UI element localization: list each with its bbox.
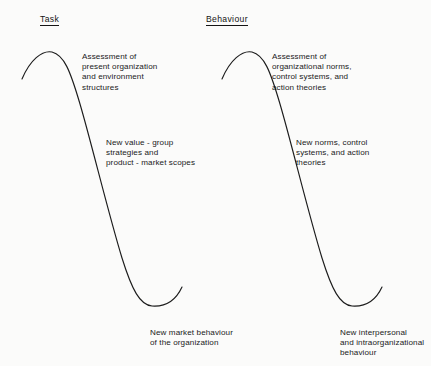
note-behaviour-new-norms: New norms, control systems, and action t… [296,138,416,169]
note-task-new-value: New value - group strategies and product… [106,138,226,169]
note-task-new-market-behaviour: New market behaviour of the organization [150,328,272,348]
note-behaviour-assessment: Assessment of organizational norms, cont… [272,52,398,93]
diagram-canvas: Task Behaviour Assessment of present org… [0,0,431,366]
note-task-assessment: Assessment of present organization and e… [82,52,200,93]
note-behaviour-new-interpersonal: New interpersonal and intraorganizationa… [340,328,431,359]
column-heading-behaviour: Behaviour [206,14,248,26]
column-heading-task: Task [40,14,59,26]
